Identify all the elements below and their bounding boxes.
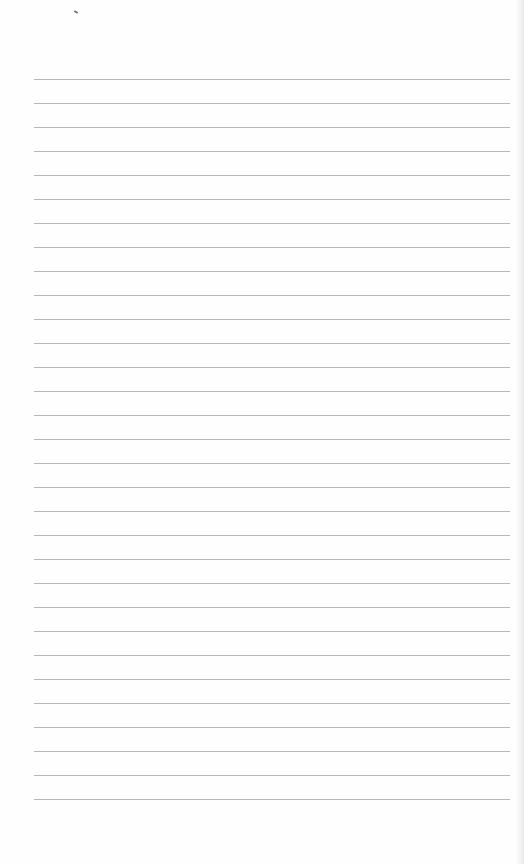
ruled-line	[34, 607, 510, 608]
ruled-line	[34, 655, 510, 656]
ruled-line	[34, 799, 510, 800]
ruled-line	[34, 727, 510, 728]
ruled-line	[34, 271, 510, 272]
ruled-lines	[34, 0, 510, 864]
ruled-line	[34, 487, 510, 488]
ruled-line	[34, 775, 510, 776]
ruled-line	[34, 175, 510, 176]
ruled-line	[34, 679, 510, 680]
ruled-line	[34, 247, 510, 248]
page-edge-shadow	[516, 0, 524, 864]
ruled-line	[34, 535, 510, 536]
ruled-line	[34, 223, 510, 224]
ruled-line	[34, 127, 510, 128]
ruled-line	[34, 751, 510, 752]
ruled-line	[34, 391, 510, 392]
ruled-line	[34, 463, 510, 464]
ruled-line	[34, 79, 510, 80]
ruled-line	[34, 103, 510, 104]
ruled-line	[34, 415, 510, 416]
ruled-line	[34, 343, 510, 344]
ruled-line	[34, 703, 510, 704]
ruled-line	[34, 367, 510, 368]
lined-paper-page	[0, 0, 524, 864]
ruled-line	[34, 583, 510, 584]
ruled-line	[34, 439, 510, 440]
ruled-line	[34, 511, 510, 512]
ruled-line	[34, 631, 510, 632]
ruled-line	[34, 319, 510, 320]
ruled-line	[34, 559, 510, 560]
ruled-line	[34, 295, 510, 296]
ruled-line	[34, 151, 510, 152]
ruled-line	[34, 199, 510, 200]
